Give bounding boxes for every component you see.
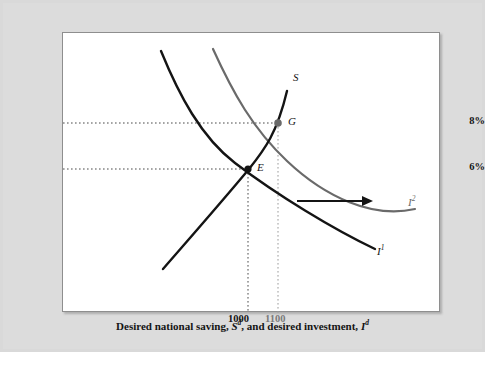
curve-i1	[161, 51, 375, 249]
curve-s	[163, 91, 287, 269]
curve-label-i2: I2	[408, 196, 415, 208]
point-marker-g	[274, 119, 282, 127]
x-axis-title-mid: , and desired investment,	[241, 320, 361, 332]
chart-canvas	[63, 33, 441, 313]
curve-label-s: S	[293, 71, 299, 83]
guide-lines	[63, 123, 278, 313]
y-tick-label-6: 6%	[451, 161, 485, 172]
shift-arrow-icon	[297, 196, 373, 206]
curve-i2	[213, 49, 415, 211]
point-marker-e	[244, 165, 251, 172]
curve-label-i1-sup: 1	[381, 243, 385, 252]
x-axis-title-lead: Desired national saving,	[116, 320, 231, 332]
point-label-g: G	[288, 115, 296, 127]
curve-label-i2-sup: 2	[412, 194, 416, 203]
y-tick-label-8: 8%	[451, 115, 485, 126]
x-axis-title: Desired national saving, Sd, and desired…	[0, 320, 485, 332]
plot-area: S G E I2 I1	[62, 32, 440, 312]
figure-page: Real interest rate, r 8% 6% 1000 1100 De…	[0, 0, 485, 368]
curve-label-i1: I1	[377, 245, 384, 257]
x-axis-symbol-investment-sup: d	[365, 318, 369, 327]
point-label-e: E	[257, 161, 264, 173]
